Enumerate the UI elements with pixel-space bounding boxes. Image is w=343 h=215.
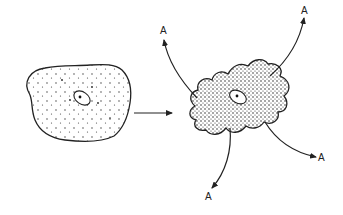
right-cell [190, 60, 289, 135]
output-arrow-top-left [164, 40, 197, 98]
output-label-top-right: A [301, 5, 308, 16]
output-arrow-bottom [212, 128, 230, 188]
output-arrow-bottom-right [265, 122, 316, 157]
output-label-bottom-right: A [318, 152, 325, 163]
output-label-top-left: A [160, 25, 167, 36]
output-label-bottom: A [205, 191, 212, 202]
left-cell [27, 65, 131, 142]
diagram-canvas: A A A A [0, 0, 343, 215]
